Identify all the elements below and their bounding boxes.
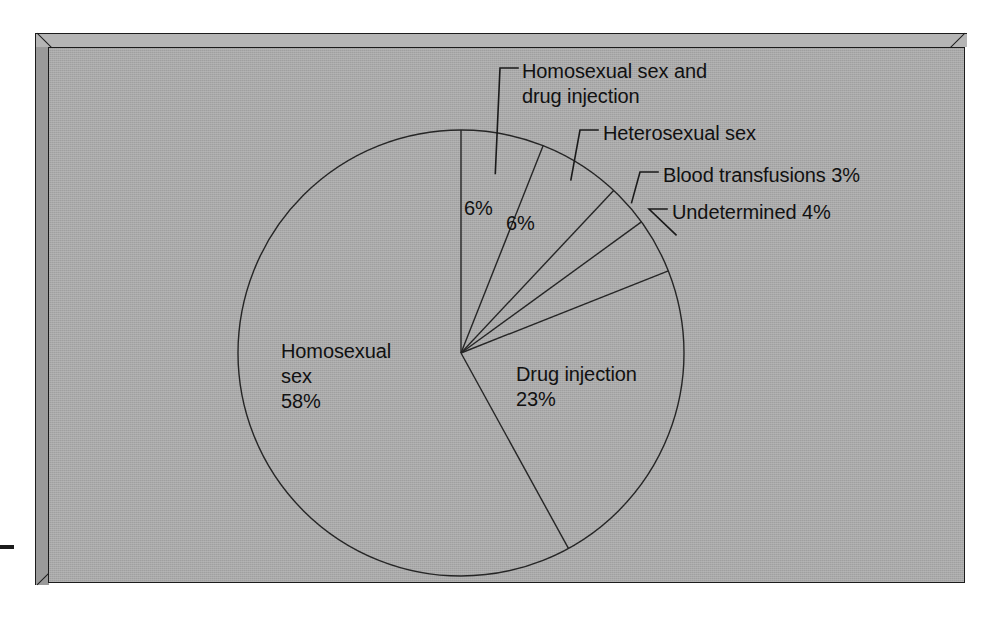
- slice-label-blood-transfusions: Blood transfusions 3%: [663, 163, 860, 188]
- slice-label-homosexual-sex-and-drug-injection: Homosexual sex and drug injection: [522, 59, 707, 109]
- leader-line-heterosexual-sex: [571, 130, 598, 180]
- pie-slice-divider: [461, 271, 668, 353]
- slice-label-undetermined: Undetermined 4%: [672, 200, 831, 225]
- leader-line-blood-transfusions: [632, 172, 658, 203]
- slice-value-heterosexual-sex: 6%: [506, 211, 535, 235]
- slice-label-heterosexual-sex: Heterosexual sex: [603, 121, 756, 146]
- pie-slice-dividers: [461, 130, 668, 548]
- slice-label-homosexual-sex: Homosexual sex 58%: [281, 339, 391, 414]
- pie-chart: [0, 0, 1002, 633]
- pie-slice-divider: [461, 146, 543, 353]
- pie-slice-divider: [461, 222, 641, 353]
- slice-label-drug-injection: Drug injection 23%: [516, 362, 637, 412]
- leader-line-homosexual-sex-and-drug-injection: [495, 68, 518, 173]
- slice-value-homosexual-sex-and-drug-injection: 6%: [464, 196, 493, 220]
